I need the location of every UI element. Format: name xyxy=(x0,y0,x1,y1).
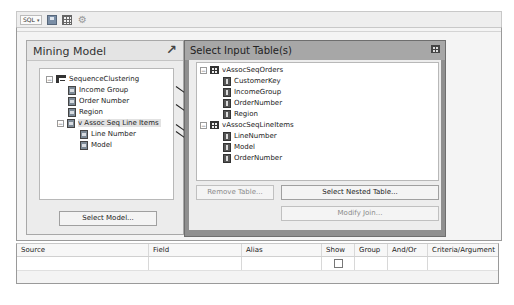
tree-node-order-number[interactable]: Order Number xyxy=(68,96,129,106)
tree-node-label: Order Number xyxy=(79,97,129,105)
tree-node-label: Model xyxy=(91,141,112,149)
tree-node-root[interactable]: − SequenceClustering xyxy=(46,74,139,84)
input-tables-title: Select Input Table(s) xyxy=(190,45,292,56)
mining-model-tree: − SequenceClustering Income Group Order … xyxy=(39,68,174,200)
table-node-line-items[interactable]: − vAssocSeqLineItems xyxy=(200,120,294,130)
select-nested-table-button[interactable]: Select Nested Table... xyxy=(281,185,439,200)
column-node[interactable]: IncomeGroup xyxy=(223,87,281,97)
column-icon xyxy=(223,99,231,108)
key-column-icon xyxy=(80,130,88,139)
column-node[interactable]: OrderNumber xyxy=(223,98,282,108)
criteria-cell[interactable] xyxy=(428,257,498,270)
column-icon xyxy=(223,77,231,86)
chevron-down-icon: ▾ xyxy=(37,17,40,23)
column-header-group[interactable]: Group xyxy=(355,244,388,256)
input-tables-body: − vAssocSeqOrders CustomerKey IncomeGrou… xyxy=(189,60,441,230)
table-name: vAssocSeqLineItems xyxy=(222,121,294,129)
remove-table-button[interactable]: Remove Table... xyxy=(196,185,274,200)
column-header-and-or[interactable]: And/Or xyxy=(388,244,428,256)
tree-node-label: v Assoc Seq Line Items xyxy=(78,119,161,127)
show-cell xyxy=(322,257,355,270)
column-name: IncomeGroup xyxy=(234,88,281,96)
mining-model-header: Mining Model ↗ xyxy=(27,41,183,61)
tree-node-label: Income Group xyxy=(79,86,128,94)
select-model-button[interactable]: Select Model... xyxy=(59,211,157,226)
column-node[interactable]: Region xyxy=(223,109,258,119)
input-column-icon xyxy=(68,108,76,117)
column-header-show[interactable]: Show xyxy=(322,244,355,256)
column-icon xyxy=(223,143,231,152)
arrow-up-right-icon[interactable]: ↗ xyxy=(166,42,177,57)
table-icon xyxy=(210,121,219,129)
column-name: Model xyxy=(234,143,255,151)
column-icon xyxy=(223,110,231,119)
column-header-source[interactable]: Source xyxy=(17,244,149,256)
mining-structure-designer: Mining Model ↗ − SequenceClustering Inco… xyxy=(16,27,502,241)
input-tables-header: Select Input Table(s) xyxy=(185,41,445,60)
alias-cell[interactable] xyxy=(242,257,322,270)
gear-icon[interactable]: ⚙ xyxy=(77,15,87,25)
tree-node-label: SequenceClustering xyxy=(69,75,139,83)
tree-node-nested-table[interactable]: − v Assoc Seq Line Items xyxy=(57,118,161,128)
view-selector-label: SQL xyxy=(23,16,35,23)
nested-table-icon xyxy=(67,119,75,128)
column-node[interactable]: CustomerKey xyxy=(223,76,281,86)
field-cell[interactable] xyxy=(149,257,242,270)
column-node[interactable]: LineNumber xyxy=(223,131,277,141)
column-icon xyxy=(223,88,231,97)
key-column-icon xyxy=(68,97,76,106)
and-or-cell[interactable] xyxy=(388,257,428,270)
select-input-tables-panel: Select Input Table(s) − vAssocSeqOrders … xyxy=(184,40,446,237)
save-icon[interactable] xyxy=(47,15,57,25)
group-cell[interactable] xyxy=(355,257,388,270)
input-column-icon xyxy=(68,86,76,95)
mining-model-title: Mining Model xyxy=(33,45,106,58)
designer-toolbar: SQL ▾ ⚙ xyxy=(16,11,502,27)
column-header-criteria[interactable]: Criteria/Argument xyxy=(428,244,498,256)
table-row xyxy=(17,257,498,271)
collapse-icon[interactable]: − xyxy=(46,76,53,83)
column-icon xyxy=(223,132,231,141)
table-name: vAssocSeqOrders xyxy=(222,66,283,74)
modify-join-button[interactable]: Modify Join... xyxy=(281,206,439,221)
table-node-orders[interactable]: − vAssocSeqOrders xyxy=(200,65,283,75)
show-checkbox[interactable] xyxy=(334,259,343,268)
column-name: OrderNumber xyxy=(234,154,282,162)
collapse-icon[interactable]: − xyxy=(200,67,207,74)
collapse-icon[interactable]: − xyxy=(200,122,207,129)
table-icon xyxy=(210,66,219,74)
column-name: LineNumber xyxy=(234,132,277,140)
tree-node-income-group[interactable]: Income Group xyxy=(68,85,128,95)
mining-model-icon xyxy=(56,75,66,83)
source-cell[interactable] xyxy=(17,257,149,270)
column-header-alias[interactable]: Alias xyxy=(242,244,322,256)
collapse-icon[interactable]: − xyxy=(57,120,64,127)
divider xyxy=(17,31,501,32)
table-icon[interactable] xyxy=(431,45,440,53)
tree-node-label: Line Number xyxy=(91,130,136,138)
tree-node-model[interactable]: Model xyxy=(80,140,112,150)
grid-icon[interactable] xyxy=(62,15,72,25)
input-tables-tree: − vAssocSeqOrders CustomerKey IncomeGrou… xyxy=(196,62,439,181)
grid-header: Source Field Alias Show Group And/Or Cri… xyxy=(17,244,498,257)
view-selector-dropdown[interactable]: SQL ▾ xyxy=(20,15,42,25)
column-name: OrderNumber xyxy=(234,99,282,107)
predict-column-icon xyxy=(80,141,88,150)
tree-node-region[interactable]: Region xyxy=(68,107,103,117)
column-node[interactable]: Model xyxy=(223,142,255,152)
column-name: CustomerKey xyxy=(234,77,281,85)
column-name: Region xyxy=(234,110,258,118)
column-node[interactable]: OrderNumber xyxy=(223,153,282,163)
tree-node-line-number[interactable]: Line Number xyxy=(80,129,136,139)
criteria-grid: Source Field Alias Show Group And/Or Cri… xyxy=(16,243,499,284)
tree-node-label: Region xyxy=(79,108,103,116)
column-header-field[interactable]: Field xyxy=(149,244,242,256)
column-icon xyxy=(223,154,231,163)
mining-model-panel: Mining Model ↗ − SequenceClustering Inco… xyxy=(26,40,184,235)
